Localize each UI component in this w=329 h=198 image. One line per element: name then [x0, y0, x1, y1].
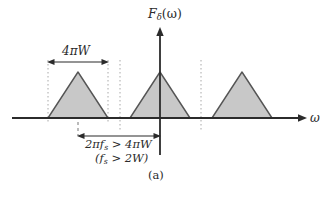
replica-left [48, 72, 108, 118]
y-axis-label-arg: (ω) [162, 6, 182, 21]
sampling-condition-label-alt: (fs > 2W) [95, 153, 148, 166]
x-axis-label: ω [310, 112, 320, 124]
figure-caption: (a) [148, 170, 164, 182]
y-axis-label: Fδ(ω) [148, 8, 182, 22]
sampling-condition-part1: 2πf [85, 137, 104, 151]
spectrum-diagram [0, 0, 329, 198]
bandwidth-label: 4πW [62, 45, 90, 57]
sampling-arrowhead-left [77, 133, 85, 139]
sampling-condition-alt-part1: (f [95, 151, 104, 165]
y-axis-arrowhead [156, 27, 163, 36]
y-axis-label-main: F [148, 6, 157, 21]
bandwidth-measure [47, 59, 109, 65]
replica-right [212, 72, 272, 118]
x-axis-arrowhead [298, 114, 307, 121]
sampling-condition-alt-part2: > 2W) [108, 151, 149, 165]
sampling-condition-part2: > 4πW [108, 137, 152, 151]
figure-container: Fδ(ω) ω 4πW 2πfs > 4πW (fs > 2W) (a) [0, 0, 329, 198]
